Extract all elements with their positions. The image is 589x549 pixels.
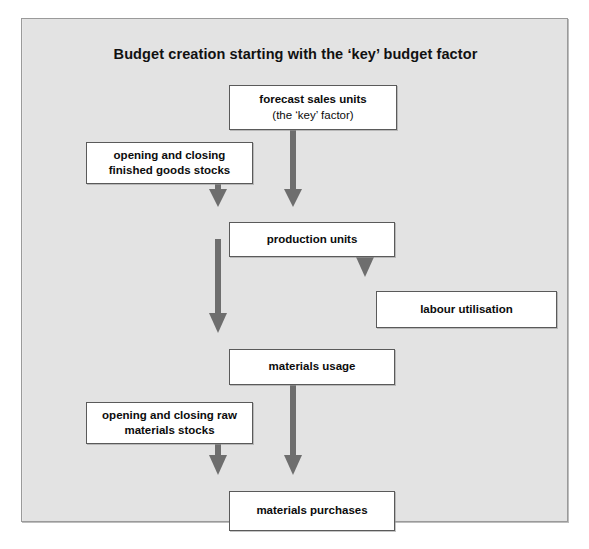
- diagram-title: Budget creation starting with the ‘key’ …: [22, 46, 569, 62]
- node-production-units-line1: production units: [267, 232, 358, 247]
- node-materials-usage: materials usage: [229, 349, 395, 385]
- diagram-canvas: Budget creation starting with the ‘key’ …: [0, 0, 589, 549]
- node-forecast-sales-units: forecast sales units (the ‘key’ factor): [229, 85, 397, 130]
- node-labour-utilisation: labour utilisation: [376, 291, 557, 328]
- node-raw-materials-stocks-line2: materials stocks: [124, 423, 214, 438]
- node-production-units: production units: [229, 222, 395, 257]
- node-finished-goods-stocks: opening and closing finished goods stock…: [86, 142, 253, 184]
- node-finished-goods-stocks-line2: finished goods stocks: [109, 163, 230, 178]
- node-materials-usage-line1: materials usage: [269, 359, 356, 374]
- diagram-panel: Budget creation starting with the ‘key’ …: [21, 18, 568, 522]
- node-raw-materials-stocks: opening and closing raw materials stocks: [86, 402, 253, 444]
- connector-production-to-materials-usage: [209, 239, 227, 333]
- node-labour-utilisation-line1: labour utilisation: [420, 302, 513, 317]
- node-forecast-sales-units-line2: (the ‘key’ factor): [272, 108, 353, 123]
- node-raw-materials-stocks-line1: opening and closing raw: [102, 408, 237, 423]
- node-finished-goods-stocks-line1: opening and closing: [114, 148, 226, 163]
- node-forecast-sales-units-line1: forecast sales units: [259, 92, 366, 107]
- node-materials-purchases-line1: materials purchases: [256, 503, 367, 518]
- node-materials-purchases: materials purchases: [229, 491, 395, 531]
